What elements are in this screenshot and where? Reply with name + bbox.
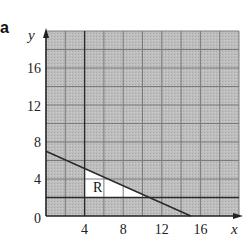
y-tick-4: 4 xyxy=(34,172,41,187)
y-tick-16: 16 xyxy=(27,61,41,76)
y-tick-12: 12 xyxy=(27,99,41,114)
region-label-r: R xyxy=(93,180,103,195)
x-tick-12: 12 xyxy=(155,222,169,237)
x-tick-16: 16 xyxy=(193,222,207,237)
y-axis-label: y xyxy=(26,27,35,43)
inequality-graph: y x 16 12 8 4 0 4 8 12 16 R xyxy=(0,0,251,242)
x-tick-4: 4 xyxy=(81,222,88,237)
origin-label: 0 xyxy=(34,211,41,226)
y-tick-8: 8 xyxy=(34,135,41,150)
x-axis-label: x xyxy=(230,221,238,237)
x-tick-8: 8 xyxy=(120,222,127,237)
